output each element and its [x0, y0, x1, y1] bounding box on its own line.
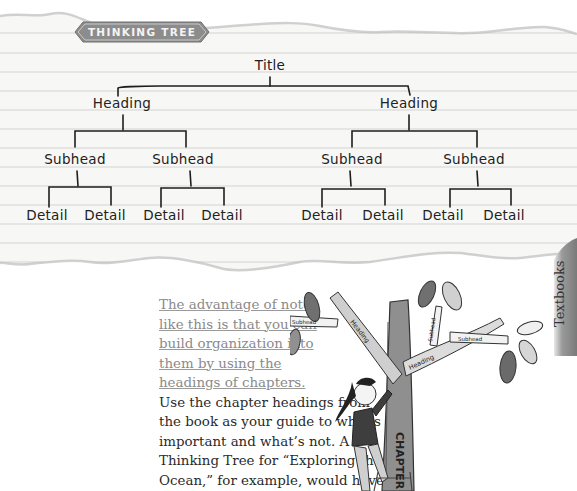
tree-detail: Detail: [26, 207, 68, 223]
badge-label: THINKING TREE: [74, 21, 210, 43]
tree-heading-left: Heading: [93, 95, 151, 111]
tree-subhead: Subhead: [152, 151, 214, 167]
tree-subhead: Subhead: [44, 151, 106, 167]
tree-detail: Detail: [483, 207, 525, 223]
thinking-tree-badge: THINKING TREE: [74, 21, 210, 43]
section-tab-label: Textbooks: [545, 258, 575, 330]
tree-subhead: Subhead: [321, 151, 383, 167]
lined-paper-background: [0, 0, 577, 300]
tree-detail: Detail: [201, 207, 243, 223]
tree-title: Title: [255, 57, 285, 73]
tree-detail: Detail: [422, 207, 464, 223]
textbook-page: THINKING TREE Title Heading Heading Subh…: [0, 0, 577, 491]
chapter-tree-illustration: [290, 272, 545, 491]
tree-subhead: Subhead: [443, 151, 505, 167]
tree-detail: Detail: [84, 207, 126, 223]
tree-detail: Detail: [143, 207, 185, 223]
tree-heading-right: Heading: [380, 95, 438, 111]
tree-detail: Detail: [362, 207, 404, 223]
tree-detail: Detail: [301, 207, 343, 223]
